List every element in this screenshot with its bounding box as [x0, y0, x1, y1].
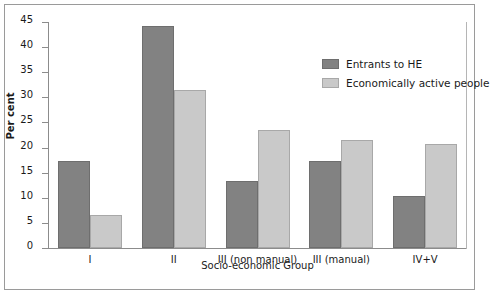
bar	[341, 140, 373, 248]
y-axis-tick: 20	[42, 148, 49, 149]
legend-item: Entrants to HE	[322, 56, 490, 72]
y-axis-tick-label: 15	[7, 165, 33, 176]
bar	[90, 215, 122, 248]
x-axis-title: Socio-economic Group	[48, 260, 467, 271]
y-axis-tick: 45	[42, 22, 49, 23]
legend-label: Entrants to HE	[346, 58, 422, 70]
bar	[226, 181, 258, 248]
y-axis-tick: 35	[42, 72, 49, 73]
y-axis-tick: 30	[42, 97, 49, 98]
bar	[425, 144, 457, 248]
y-axis-tick-label: 45	[7, 14, 33, 25]
y-axis-tick-label: 40	[7, 39, 33, 50]
y-axis-tick-label: 30	[7, 89, 33, 100]
y-axis-tick-label: 20	[7, 140, 33, 151]
y-axis-tick-label: 0	[7, 240, 33, 251]
bar	[58, 161, 90, 248]
y-axis-tick: 0	[42, 248, 49, 249]
bar	[142, 26, 174, 248]
y-axis-tick: 40	[42, 47, 49, 48]
legend-label: Economically active people	[346, 77, 490, 89]
y-axis-line	[48, 22, 49, 248]
legend-swatch	[322, 59, 339, 69]
y-axis-tick: 25	[42, 122, 49, 123]
legend-swatch	[322, 78, 339, 88]
y-axis-tick-label: 25	[7, 114, 33, 125]
y-axis-tick: 5	[42, 223, 49, 224]
y-axis-tick-label: 10	[7, 190, 33, 201]
x-axis-line	[42, 248, 467, 249]
y-axis-tick-label: 5	[7, 215, 33, 226]
legend-item: Economically active people	[322, 75, 490, 91]
bar	[258, 130, 290, 248]
y-axis-tick: 10	[42, 198, 49, 199]
chart-legend: Entrants to HEEconomically active people	[322, 56, 490, 94]
bar	[393, 196, 425, 248]
y-axis-tick: 15	[42, 173, 49, 174]
bar	[309, 161, 341, 248]
bar	[174, 90, 206, 248]
y-axis-tick-label: 35	[7, 64, 33, 75]
